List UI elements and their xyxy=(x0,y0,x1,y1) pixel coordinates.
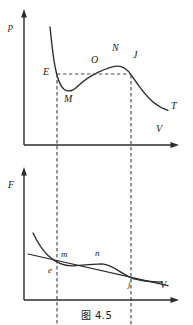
isotherm-temperature-label: T xyxy=(171,101,177,111)
point-label-n: n xyxy=(95,249,100,258)
bottom-panel-group xyxy=(21,167,179,303)
bottom-y-axis-arrowhead xyxy=(21,167,27,176)
point-label-M: M xyxy=(64,94,72,104)
point-label-m: m xyxy=(61,250,68,259)
bottom-x-axis-arrowhead xyxy=(171,297,180,303)
point-label-E: E xyxy=(43,67,49,77)
top-y-axis-arrowhead xyxy=(21,9,27,18)
point-label-N: N xyxy=(112,43,119,53)
top-x-axis-label: V xyxy=(156,124,162,134)
top-x-axis-arrowhead xyxy=(171,142,180,148)
top-y-axis-label: p xyxy=(8,22,13,32)
point-label-J: J xyxy=(133,50,137,60)
figure-container: p V E M O N J T F V e m n j 图 4.5 xyxy=(0,0,193,325)
bottom-x-axis-label: V xyxy=(160,280,166,290)
point-label-e: e xyxy=(48,266,52,275)
top-panel-group xyxy=(21,9,179,325)
figure-graphics xyxy=(0,0,193,325)
bottom-y-axis-label: F xyxy=(8,180,14,190)
figure-caption: 图 4.5 xyxy=(0,307,193,322)
point-label-O: O xyxy=(91,55,98,65)
point-label-j: j xyxy=(128,280,131,289)
